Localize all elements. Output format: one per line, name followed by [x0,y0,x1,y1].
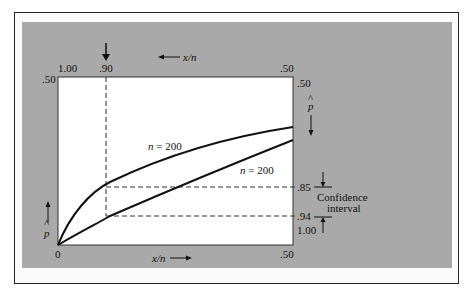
right-arrow-head-icon [186,256,192,261]
right-tick-0-50: .50 [297,77,311,89]
plot-area [58,77,293,245]
top-axis-label: x/n [182,51,197,63]
left-arrow-head-icon [158,55,164,60]
chart-svg: n = 200 n = 200 1.00 .90 .50 x/n .50 ^ p… [0,0,470,300]
lower-curve-label: n = 200 [240,164,274,176]
interval-arrow-down-head-icon [321,182,326,187]
right-tick-1-00: 1.00 [297,224,317,236]
interval-label-line2: interval [327,202,361,214]
left-tick-0-50: .50 [42,73,56,85]
top-tick-0-50: .50 [280,62,294,74]
right-tick-0-85: .85 [297,181,311,193]
interval-arrow-up-head-icon [321,217,326,222]
top-tick-0-90: .90 [99,62,113,74]
right-axis-label: p [307,100,314,112]
right-tick-0-94: .94 [297,210,311,222]
up-arrow-head-icon [46,201,51,207]
left-axis-label: p [43,227,50,239]
bottom-axis-label: x/n [151,252,166,264]
down-arrow-right-head-icon [309,130,314,136]
down-arrow-head-icon [102,54,110,61]
top-tick-1-00: 1.00 [58,62,78,74]
bottom-tick-0: 0 [55,248,61,260]
bottom-tick-0-50: .50 [280,248,294,260]
upper-curve-label: n = 200 [148,140,182,152]
